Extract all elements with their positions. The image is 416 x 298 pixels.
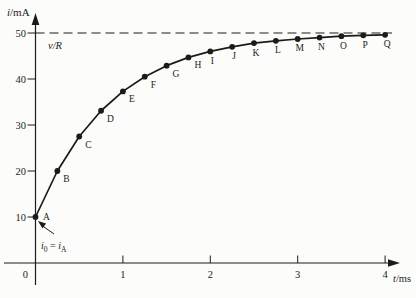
point-label: J <box>232 51 236 61</box>
data-point <box>360 32 366 38</box>
data-point <box>186 54 192 60</box>
data-point <box>120 89 126 95</box>
annotation-label-part: = <box>48 240 59 251</box>
point-label: F <box>151 80 156 90</box>
annotation-label-part: A <box>61 245 67 254</box>
y-tick-label: 30 <box>16 120 27 131</box>
point-label: A <box>43 212 50 222</box>
data-point <box>339 33 345 39</box>
y-axis-label-part: /mA <box>10 6 30 18</box>
data-point <box>98 108 104 114</box>
data-point <box>76 134 82 140</box>
asymptote-label: v/R <box>48 40 63 51</box>
x-axis-label-part: /ms <box>396 273 411 284</box>
point-label: E <box>129 94 135 104</box>
y-tick-label: 40 <box>16 74 27 85</box>
data-point <box>33 214 39 220</box>
x-tick-label: 3 <box>295 269 300 280</box>
y-tick-label: 20 <box>16 166 27 177</box>
data-point <box>295 36 301 42</box>
point-label: I <box>211 56 214 66</box>
x-axis-arrow-icon <box>388 259 400 267</box>
point-label: L <box>275 45 281 55</box>
point-label: G <box>173 69 180 79</box>
data-point <box>251 40 257 46</box>
asymptote-label-part: v/R <box>48 40 63 51</box>
figure-page: v/Ri/mAt/ms123401020304050ABCDEFGHIJKLMN… <box>0 0 416 298</box>
point-label: P <box>363 40 368 50</box>
origin-label: 0 <box>23 269 28 280</box>
data-point <box>142 74 148 80</box>
x-tick-label: 2 <box>208 269 213 280</box>
point-label: C <box>85 140 91 150</box>
data-point <box>207 49 213 55</box>
data-point <box>229 44 235 50</box>
data-point <box>317 35 323 41</box>
data-point <box>382 32 388 38</box>
current-growth-chart: v/Ri/mAt/ms123401020304050ABCDEFGHIJKLMN… <box>0 0 416 298</box>
annotation-label: i0 = iA <box>41 240 67 254</box>
point-label: M <box>295 43 304 53</box>
point-label: Q <box>384 39 391 49</box>
x-tick-label: 4 <box>382 269 388 280</box>
data-point <box>164 63 170 69</box>
y-tick-label: 10 <box>16 212 27 223</box>
data-point <box>54 168 60 174</box>
point-label: O <box>340 41 347 51</box>
annotation-arrow <box>42 226 54 235</box>
data-point <box>273 38 279 44</box>
point-label: D <box>107 114 114 124</box>
point-label: K <box>253 48 260 58</box>
point-label: H <box>194 60 201 70</box>
y-axis-arrow-icon <box>32 13 40 25</box>
y-axis-label: i/mA <box>7 6 30 18</box>
point-label: N <box>318 42 325 52</box>
x-axis-label: t/ms <box>393 273 411 284</box>
y-tick-label: 50 <box>16 28 27 39</box>
point-label: B <box>63 174 69 184</box>
x-tick-label: 1 <box>120 269 125 280</box>
